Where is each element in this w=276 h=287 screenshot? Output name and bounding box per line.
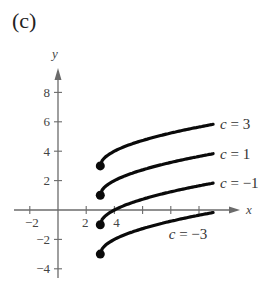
chart: xy−224−4−22468c = 3c = 1c = −1c = −3 — [0, 0, 276, 287]
curve-label: c = 1 — [220, 146, 250, 162]
start-point-dot — [96, 220, 105, 229]
y-axis-label: y — [50, 46, 58, 61]
x-tick-label: 2 — [82, 215, 89, 230]
y-tick-label: 8 — [44, 85, 51, 100]
y-tick-label: 2 — [44, 173, 51, 188]
curve-c3 — [100, 124, 213, 166]
y-tick-label: −2 — [36, 232, 50, 247]
x-tick-label: −2 — [25, 215, 39, 230]
curve-label: c = −3 — [169, 226, 208, 242]
curve-label: c = 3 — [220, 116, 250, 132]
y-tick-label: 6 — [44, 114, 51, 129]
y-axis-arrow-icon — [55, 68, 62, 80]
curve-label: c = −1 — [220, 175, 259, 191]
curve-c1 — [100, 154, 213, 196]
start-point-dot — [96, 191, 105, 200]
x-axis-label: x — [245, 202, 252, 217]
start-point-dot — [96, 161, 105, 170]
start-point-dot — [96, 250, 105, 259]
x-axis-arrow-icon — [229, 207, 240, 214]
y-tick-label: 4 — [44, 144, 51, 159]
y-tick-label: −4 — [36, 261, 50, 276]
x-tick-label: 4 — [113, 215, 120, 230]
